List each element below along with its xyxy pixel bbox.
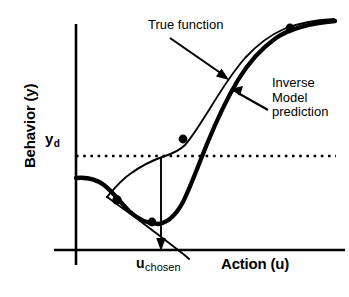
true-function-annotation-label: True function	[148, 18, 223, 32]
figure-panel: Behavior (y) Action (u) yd uchosen True …	[0, 0, 349, 297]
u-chosen-tick-label: uchosen	[136, 256, 181, 274]
annotation-leader-inverse-model	[230, 86, 268, 110]
annotation-leader-true-function	[170, 38, 229, 80]
sample-point-markers	[112, 24, 294, 227]
y-desired-tick-label: yd	[45, 131, 60, 150]
sample-point-crossing	[179, 135, 188, 144]
axes-group	[54, 24, 345, 265]
u-chosen-tick-label-subscript: chosen	[145, 261, 180, 273]
sample-point-upper-right	[286, 24, 295, 33]
x-axis-title: Action (u)	[221, 256, 289, 272]
inverse-model-annotation-line-2: Model	[272, 91, 328, 106]
u-chosen-tick-label-base: u	[136, 255, 145, 271]
y-desired-tick-label-subscript: d	[54, 138, 60, 149]
sample-point-left	[112, 195, 121, 204]
inverse-model-annotation-line-3: prediction	[272, 105, 328, 120]
true-function-curve	[76, 21, 335, 224]
inverse-model-annotation-line-1: Inverse	[272, 76, 328, 91]
true-function-leader-line	[170, 38, 222, 74]
inverse-model-leader-line	[238, 93, 268, 110]
inverse-model-annotation-label: Inverse Model prediction	[272, 76, 328, 120]
u-chosen-vertical-arrow	[156, 157, 166, 251]
y-axis-title: Behavior (y)	[22, 60, 38, 192]
y-desired-tick-label-base: y	[45, 130, 53, 147]
sample-point-below-axis-region	[148, 218, 157, 227]
